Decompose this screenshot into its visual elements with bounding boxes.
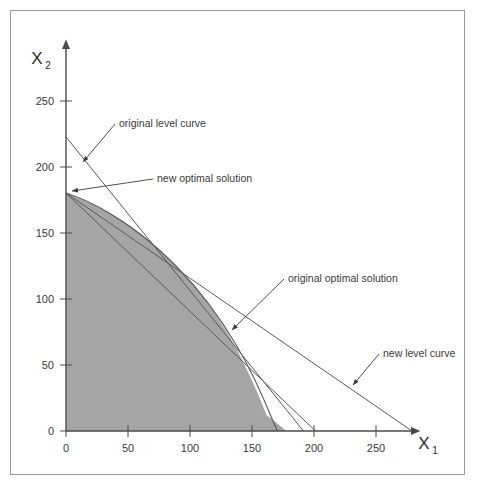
y-tick-label-100: 100 — [36, 293, 54, 305]
original-level-curve-leader-line — [83, 124, 115, 162]
annotation-new-optimal-solution: new optimal solution — [72, 172, 252, 191]
x-tick-label-150: 150 — [243, 442, 261, 454]
x-tick-label-100: 100 — [181, 442, 199, 454]
y-tick-label-150: 150 — [36, 227, 54, 239]
y-tick-label-250: 250 — [36, 95, 54, 107]
new-optimal-solution-label: new optimal solution — [157, 172, 252, 184]
x-tick-label-250: 250 — [367, 442, 385, 454]
x-tick-label-0: 0 — [63, 442, 69, 454]
y-tick-label-50: 50 — [42, 359, 54, 371]
y-tick-label-200: 200 — [36, 161, 54, 173]
annotation-original-level-curve: original level curve — [83, 117, 206, 162]
original-optimal-solution-leader-line — [232, 279, 284, 330]
y-tick-label-0: 0 — [48, 425, 54, 437]
original-optimal-solution-label: original optimal solution — [288, 272, 398, 284]
chart-canvas: 0 50 100 150 200 250 0 50 100 150 200 25… — [0, 0, 477, 487]
new-optimal-solution-leader-line — [72, 179, 153, 191]
x-axis-title-subscript: 1 — [432, 445, 438, 456]
new-level-curve-leader-line — [353, 354, 379, 385]
figure-root: 0 50 100 150 200 250 0 50 100 150 200 25… — [0, 0, 477, 487]
y-axis-title-subscript: 2 — [45, 60, 51, 71]
x-tick-label-200: 200 — [305, 442, 323, 454]
x-axis-title: X — [418, 434, 429, 453]
feasible-region-fill — [66, 193, 287, 431]
y-axis-title: X — [31, 49, 42, 68]
new-level-curve-label: new level curve — [383, 347, 456, 359]
annotation-new-level-curve: new level curve — [353, 347, 456, 385]
feasible-region — [66, 193, 287, 431]
x-tick-label-50: 50 — [122, 442, 134, 454]
annotation-original-optimal-solution: original optimal solution — [232, 272, 398, 330]
original-level-curve-label: original level curve — [119, 117, 206, 129]
